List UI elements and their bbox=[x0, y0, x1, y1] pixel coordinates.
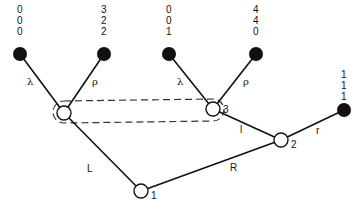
edge-label-lambda-right: λ bbox=[177, 76, 184, 87]
edge-label-l: l bbox=[240, 124, 242, 135]
edge-R bbox=[141, 140, 281, 191]
edge-label-lambda-left: λ bbox=[27, 76, 34, 87]
payoff-leaf-5: 1 1 1 bbox=[341, 69, 347, 102]
payoff-leaf-3: 0 0 1 bbox=[166, 4, 172, 37]
svg-text:0: 0 bbox=[166, 15, 172, 26]
svg-text:1: 1 bbox=[341, 91, 347, 102]
svg-text:2: 2 bbox=[101, 15, 107, 26]
svg-text:0: 0 bbox=[17, 4, 23, 15]
edge-label-rho-left: ρ bbox=[92, 76, 98, 87]
edge-label-R: R bbox=[230, 162, 237, 173]
tree-edges bbox=[20, 54, 344, 191]
svg-text:4: 4 bbox=[253, 15, 259, 26]
information-set-outline bbox=[53, 99, 224, 123]
edge-lambda-right bbox=[169, 54, 213, 109]
edge-r bbox=[281, 110, 344, 140]
node-label-2: 2 bbox=[291, 139, 297, 150]
terminal-node bbox=[249, 47, 263, 61]
decision-node-2 bbox=[274, 133, 288, 147]
decision-node-1 bbox=[134, 184, 148, 198]
payoff-leaf-1: 0 0 0 bbox=[17, 4, 23, 37]
terminal-node bbox=[97, 47, 111, 61]
svg-text:0: 0 bbox=[166, 4, 172, 15]
payoff-leaf-4: 4 4 0 bbox=[253, 4, 259, 37]
edge-label-rho-right: ρ bbox=[243, 76, 249, 87]
svg-text:1: 1 bbox=[341, 69, 347, 80]
edge-label-L: L bbox=[87, 163, 93, 174]
svg-text:0: 0 bbox=[17, 26, 23, 37]
payoff-leaf-2: 3 2 2 bbox=[101, 4, 107, 37]
svg-text:2: 2 bbox=[101, 26, 107, 37]
edge-rho-right bbox=[213, 54, 256, 109]
edge-label-r: r bbox=[316, 125, 320, 136]
node-label-1: 1 bbox=[151, 190, 157, 201]
node-label-3: 3 bbox=[223, 104, 229, 115]
decision-node-3 bbox=[206, 102, 220, 116]
svg-text:3: 3 bbox=[101, 4, 107, 15]
terminal-node bbox=[13, 47, 27, 61]
edge-rho-left bbox=[64, 54, 104, 113]
svg-text:4: 4 bbox=[253, 4, 259, 15]
svg-text:0: 0 bbox=[17, 15, 23, 26]
svg-text:0: 0 bbox=[253, 26, 259, 37]
terminal-node bbox=[162, 47, 176, 61]
decision-node-A bbox=[57, 106, 71, 120]
game-tree-diagram: 1 2 3 0 0 0 3 2 2 0 0 1 4 4 0 1 1 1 L R … bbox=[0, 0, 363, 212]
svg-text:1: 1 bbox=[166, 26, 172, 37]
edge-L bbox=[64, 113, 141, 191]
svg-text:1: 1 bbox=[341, 80, 347, 91]
terminal-node bbox=[337, 103, 351, 117]
